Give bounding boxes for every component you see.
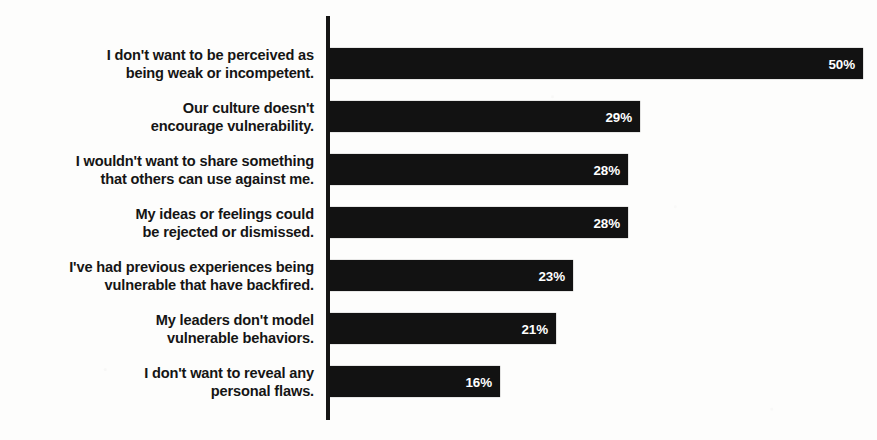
bar-rows-container: I don't want to be perceived as being we…: [0, 0, 877, 440]
category-label: I don't want to be perceived as being we…: [14, 45, 314, 82]
bar-track: 28%: [330, 207, 628, 238]
bar-track: 16%: [330, 366, 500, 397]
bar-track: 23%: [330, 260, 573, 291]
category-label: I don't want to reveal any personal flaw…: [14, 363, 314, 400]
category-label: I wouldn't want to share something that …: [14, 151, 314, 188]
bar-value-label: 28%: [593, 162, 620, 177]
bar-fill: 28%: [330, 154, 628, 185]
bar-row: I've had previous experiences being vuln…: [0, 260, 877, 291]
bar-row: I don't want to reveal any personal flaw…: [0, 366, 877, 397]
bar-fill: 16%: [330, 366, 500, 397]
bar-value-label: 16%: [465, 374, 492, 389]
category-label: Our culture doesn't encourage vulnerabil…: [14, 98, 314, 135]
bar-track: 50%: [330, 48, 863, 79]
category-label: My leaders don't model vulnerable behavi…: [14, 310, 314, 347]
category-label: My ideas or feelings could be rejected o…: [14, 204, 314, 241]
bar-chart: I don't want to be perceived as being we…: [0, 0, 877, 440]
bar-row: I wouldn't want to share something that …: [0, 154, 877, 185]
bar-value-label: 29%: [605, 109, 632, 124]
bar-row: My leaders don't model vulnerable behavi…: [0, 313, 877, 344]
bar-value-label: 28%: [593, 215, 620, 230]
bar-row: My ideas or feelings could be rejected o…: [0, 207, 877, 238]
bar-fill: 29%: [330, 101, 640, 132]
bar-fill: 50%: [330, 48, 863, 79]
bar-row: I don't want to be perceived as being we…: [0, 48, 877, 79]
bar-row: Our culture doesn't encourage vulnerabil…: [0, 101, 877, 132]
bar-value-label: 21%: [521, 321, 548, 336]
category-label: I've had previous experiences being vuln…: [14, 257, 314, 294]
bar-track: 21%: [330, 313, 556, 344]
bar-track: 28%: [330, 154, 628, 185]
bar-fill: 28%: [330, 207, 628, 238]
bar-value-label: 50%: [828, 56, 855, 71]
bar-fill: 21%: [330, 313, 556, 344]
bar-track: 29%: [330, 101, 640, 132]
bar-value-label: 23%: [538, 268, 565, 283]
bar-fill: 23%: [330, 260, 573, 291]
